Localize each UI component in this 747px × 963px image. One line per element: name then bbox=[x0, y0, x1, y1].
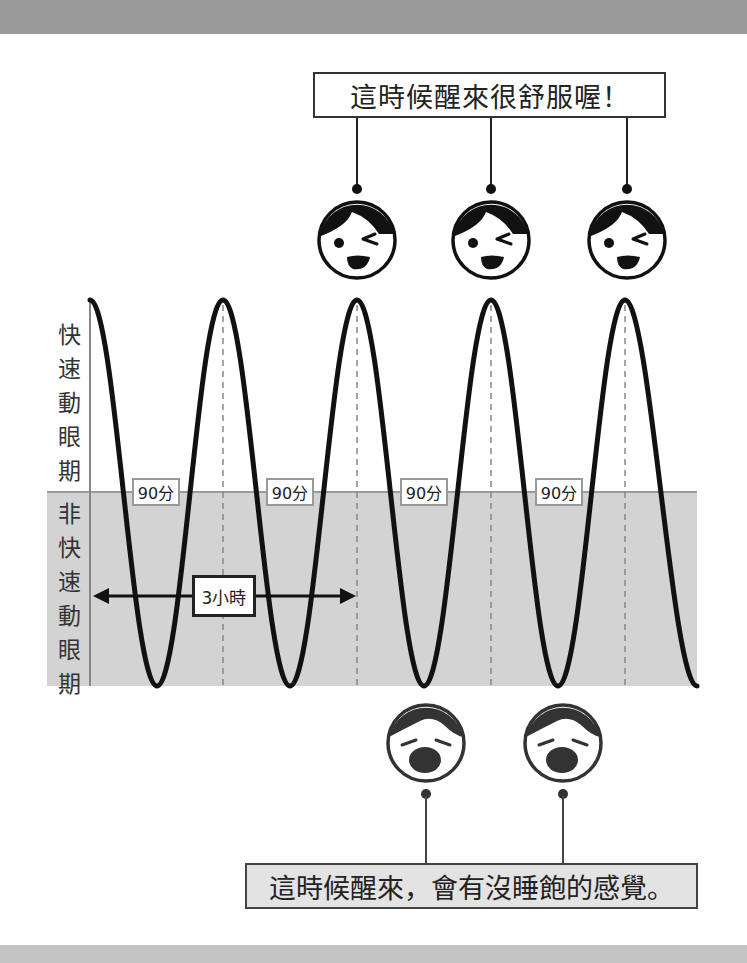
rem-label-char: 眼 bbox=[52, 420, 86, 454]
nrem-label-char: 期 bbox=[52, 667, 86, 701]
rem-axis-label: 快 速 動 眼 期 bbox=[52, 318, 86, 488]
bad-wake-text: 這時候醒來，會有沒睡飽的感覺。 bbox=[269, 867, 674, 906]
cycle-duration-label: 90分 bbox=[535, 478, 583, 506]
good-callout-connectors bbox=[357, 118, 627, 188]
good-wake-text: 這時候醒來很舒服喔！ bbox=[350, 76, 630, 115]
rem-label-char: 速 bbox=[52, 352, 86, 386]
rem-label-char: 動 bbox=[52, 386, 86, 420]
winking-happy-face-icon bbox=[589, 202, 665, 278]
cycle-duration-label: 90分 bbox=[266, 478, 314, 506]
three-hour-label: 3小時 bbox=[192, 575, 256, 617]
sleep-wave-curve bbox=[90, 300, 697, 686]
nrem-label-char: 快 bbox=[52, 531, 86, 565]
cycle-duration-label: 90分 bbox=[400, 478, 448, 506]
nrem-label-char: 非 bbox=[52, 497, 86, 531]
bad-callout-connectors bbox=[426, 796, 563, 863]
nrem-label-char: 眼 bbox=[52, 633, 86, 667]
good-wake-callout: 這時候醒來很舒服喔！ bbox=[313, 72, 666, 118]
rem-label-char: 期 bbox=[52, 454, 86, 488]
bottom-decorative-band bbox=[0, 945, 747, 963]
yawning-sleepy-face-icon bbox=[388, 705, 464, 781]
winking-happy-face-icon bbox=[319, 202, 395, 278]
cycle-duration-label: 90分 bbox=[132, 478, 180, 506]
nrem-axis-label: 非 快 速 動 眼 期 bbox=[52, 497, 86, 701]
winking-happy-face-icon bbox=[453, 202, 529, 278]
rem-label-char: 快 bbox=[52, 318, 86, 352]
nrem-label-char: 速 bbox=[52, 565, 86, 599]
yawning-sleepy-face-icon bbox=[525, 705, 601, 781]
nrem-label-char: 動 bbox=[52, 599, 86, 633]
sleep-cycle-diagram bbox=[0, 0, 747, 963]
bad-wake-callout: 這時候醒來，會有沒睡飽的感覺。 bbox=[245, 863, 698, 909]
